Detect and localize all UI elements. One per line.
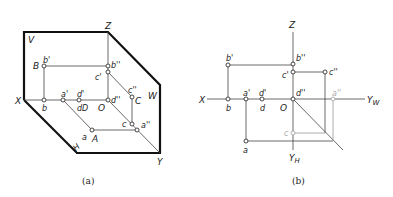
label-B: B [33,61,39,71]
label-a-prime: a' [61,90,68,99]
label-origin-o: O [98,103,105,113]
label-b-prime: b' [43,56,50,65]
label-d-prime: d' [259,89,266,98]
point-b-dprime [106,64,110,68]
miter-line-45 [293,99,343,150]
label-a-dprime: a'' [332,89,341,98]
label-d-dprime: d'' [296,89,305,98]
point-d-dprime [106,98,110,102]
label-C: C [135,96,142,106]
label-b: b [42,104,47,113]
point-c-dprime [323,70,327,74]
point-a [244,139,248,143]
caption-a: (a) [82,176,94,186]
point-c-dprime [130,95,134,99]
point-b [226,97,230,101]
label-axis-x: X [14,96,22,106]
label-c-dprime: c'' [128,86,137,95]
label-plane-w: W [148,91,158,101]
label-d: d [260,104,266,113]
label-a-prime: a' [243,89,250,98]
point-d-dprime [291,97,295,101]
point-c-prime [291,70,295,74]
label-dD: dD [77,104,88,113]
label-axis-z: Z [288,20,296,30]
label-a-dprime: a'' [141,121,150,130]
label-b: b [226,104,231,113]
label-d-dprime: d'' [111,96,120,105]
label-axis-y: Y [157,157,164,167]
label-a: a [82,133,87,142]
label-b-dprime: b'' [296,54,305,63]
projection-figure: V W H Z X Y O B b' b b'' a' d' dD d'' c'… [0,0,393,197]
point-a-dprime [135,128,139,132]
point-c [291,131,295,135]
label-axis-yh: YH [289,153,301,165]
label-c-prime: c' [95,73,102,82]
label-origin-o: O [280,103,287,113]
label-c: c [284,129,289,138]
label-c-prime: c' [282,71,289,80]
label-c-dprime: c'' [329,68,338,77]
label-c: c [122,120,127,129]
figure-b-orthographic: Z X O YW YH b' b b'' a' d' d d'' c' c'' … [198,20,381,186]
point-c [130,122,134,126]
label-axis-z: Z [104,21,112,31]
figure-a-pictorial: V W H Z X Y O B b' b b'' a' d' dD d'' c'… [14,21,164,186]
label-plane-v: V [28,35,35,45]
point-b [42,98,46,102]
label-d-prime: d' [77,90,84,99]
caption-b: (b) [292,176,305,186]
point-c-prime [106,70,110,74]
label-b-dprime: b'' [111,61,120,70]
label-b-prime: b' [226,54,233,63]
point-a [90,128,94,132]
point-b-prime [226,63,230,67]
label-axis-yw: YW [367,95,381,107]
label-A: A [91,134,98,144]
label-a: a [243,146,248,155]
y-axis [108,100,160,153]
point-b-dprime [291,62,295,66]
label-axis-x: X [198,95,206,105]
label-plane-h: H [71,142,81,153]
